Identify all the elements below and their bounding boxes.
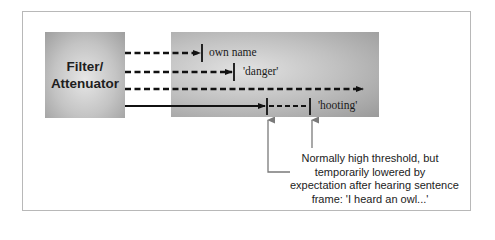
channel-own-name [125,44,202,62]
label-hooting: 'hooting' [318,99,357,112]
annotation-line-2: temporarily lowered by [290,166,450,180]
channel-danger [125,63,234,81]
label-own-name: own name [209,46,257,59]
annotation-line-1: Normally high threshold, but [290,152,450,166]
label-danger: 'danger' [243,65,278,78]
threshold-annotation: Normally high threshold, but temporarily… [290,152,450,206]
annotation-line-3: expectation after hearing sentence [290,179,450,193]
channel-hooting [125,98,310,115]
annotation-line-4: frame: 'I heard an owl...' [290,193,450,207]
